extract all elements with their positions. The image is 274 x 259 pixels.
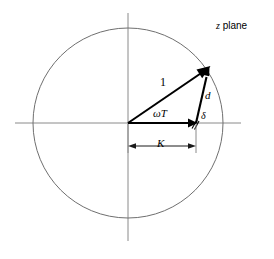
k-dimension-arrowhead-right <box>188 143 196 149</box>
unit-vector-label: 1 <box>160 76 166 88</box>
k-dimension-label: K <box>157 138 164 149</box>
k-dimension-arrowhead-left <box>128 143 136 149</box>
omega-t-label: ωT <box>153 108 167 119</box>
figure-canvas <box>0 0 274 259</box>
d-vector-label: d <box>205 90 211 101</box>
z-plane-figure: z plane 1 d ωT δ K <box>0 0 274 259</box>
z-plane-label-plain: plane <box>220 20 247 31</box>
delta-angle-label: δ <box>201 111 206 121</box>
z-plane-label: z plane <box>216 21 247 31</box>
